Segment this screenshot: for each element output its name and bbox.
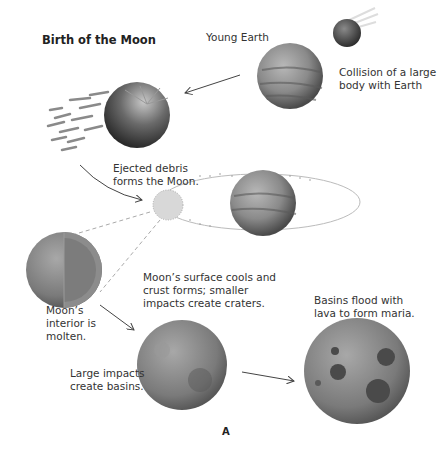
young-earth-sphere (257, 43, 323, 109)
label-cools-line3: impacts create craters. (143, 297, 265, 309)
label-interior-line2: interior is (46, 317, 96, 329)
arrow-collision (185, 75, 240, 93)
label-cools-line2: crust forms; smaller (143, 284, 248, 296)
label-basins-line1: Large impacts (70, 367, 144, 379)
label-ejected-line1: Ejected debris (113, 162, 188, 174)
orbit-earth-sphere (230, 170, 296, 236)
label-ejected-line2: forms the Moon. (113, 175, 199, 187)
label-collision-line1: Collision of a large (339, 66, 436, 78)
label-young-earth: Young Earth (206, 31, 269, 43)
figure-label: A (222, 426, 230, 437)
maria-moon-sphere (304, 318, 410, 424)
label-interior-line3: molten. (46, 330, 86, 342)
impactor-body (333, 8, 378, 47)
label-interior-line1: Moon’s (46, 304, 83, 316)
diagram-title: Birth of the Moon (42, 33, 156, 47)
arrow-cooling (100, 305, 134, 330)
impact-sphere (48, 82, 170, 150)
label-maria-line1: Basins flood with (314, 294, 403, 306)
label-cools-line1: Moon’s surface cools and (143, 271, 276, 283)
molten-moon-cutaway (26, 232, 102, 308)
label-maria-line2: lava to form maria. (314, 307, 415, 319)
label-collision-line2: body with Earth (339, 79, 422, 91)
arrow-flooding (242, 372, 294, 381)
forming-moon (153, 190, 183, 220)
label-basins-line2: create basins. (70, 380, 144, 392)
cratered-moon-sphere (137, 320, 227, 410)
